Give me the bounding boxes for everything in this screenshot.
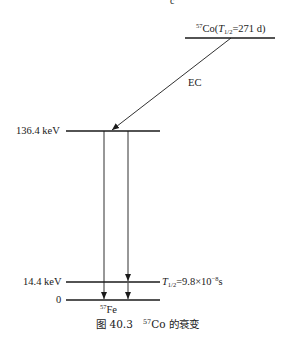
level-14-half-life-unit: s xyxy=(219,276,223,287)
caption-mass-number: 57 xyxy=(143,318,151,326)
parent-nucleus-label: 57Co(T1/2=271 d) xyxy=(196,23,265,36)
daughter-nucleus-label: 57Fe xyxy=(100,304,117,316)
ec-arrow xyxy=(112,38,231,130)
level-14-half-life-exp: −8 xyxy=(212,275,219,282)
caption-prefix: 图 40.3 xyxy=(96,318,133,330)
level-136-label: 136.4 keV xyxy=(16,126,60,137)
ground-level-label: 0 xyxy=(56,295,61,306)
daughter-symbol: Fe xyxy=(107,304,118,315)
decay-scheme-diagram xyxy=(0,0,295,351)
level-14-half-life: T1/2=9.8×10−8s xyxy=(162,276,223,289)
level-14-half-life-sub: 1/2 xyxy=(168,281,176,288)
decay-mode-label: EC xyxy=(188,78,201,89)
caption-symbol: Co xyxy=(151,318,165,330)
figure-caption: 图 40.3 57Co 的衰变 xyxy=(0,316,295,331)
parent-half-life-value: =271 d xyxy=(232,23,262,34)
level-14-half-life-value: =9.8×10 xyxy=(176,276,211,287)
parent-symbol: Co xyxy=(203,23,215,34)
caption-suffix: 的衰变 xyxy=(166,318,199,330)
level-14-label: 14.4 keV xyxy=(23,277,62,288)
